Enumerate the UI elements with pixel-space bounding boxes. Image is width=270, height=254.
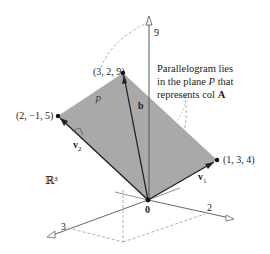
- y-axis-arrow-icon: [226, 215, 234, 221]
- x-axis-arrow-icon: [47, 231, 55, 238]
- vector-b-label: b: [138, 101, 144, 111]
- origin-point: [146, 198, 151, 203]
- vector-v2-label: v2: [73, 140, 82, 153]
- z-axis-tick-label: 9: [154, 28, 159, 38]
- diagram-canvas: [0, 0, 270, 254]
- x-axis-tick-label: 3: [61, 222, 66, 232]
- vector-v1-label: v1: [198, 172, 207, 185]
- point-b-label: (3, 2, 9): [93, 67, 125, 77]
- point-v2-label: (2, −1, 5): [16, 111, 53, 121]
- y-axis: [148, 200, 230, 218]
- point-v2: [56, 114, 60, 118]
- point-v1-label: (1, 3, 4): [223, 155, 255, 165]
- space-label: ℝ³: [45, 175, 57, 186]
- plane-label: P: [95, 95, 101, 105]
- origin-label: 0: [145, 205, 150, 215]
- point-v1: [215, 158, 219, 162]
- figure-caption: Parallelogram lies in the plane P that r…: [157, 62, 233, 101]
- z-axis-arrow-icon: [146, 16, 152, 25]
- y-axis-tick-label: 2: [207, 203, 212, 213]
